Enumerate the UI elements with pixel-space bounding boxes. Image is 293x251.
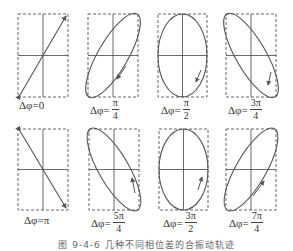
label-prefix: Δφ=: [229, 217, 249, 229]
direction-arrow: [117, 66, 126, 79]
direction-arrow: [268, 72, 271, 85]
label-phase-3pi-2: Δφ= 3π2: [163, 211, 197, 234]
label-prefix: Δφ=: [91, 217, 111, 229]
fraction: 3π2: [185, 211, 197, 234]
label-phase-pi: Δφ=π: [24, 214, 49, 226]
fraction: π2: [183, 98, 190, 121]
panel-phase-pi-4: [76, 6, 150, 104]
figure-caption: 图 9-4-6 几种不同相位差的合振动轨迹: [0, 238, 293, 251]
fraction: π4: [112, 98, 119, 121]
panel-phase-0: [18, 14, 68, 97]
fraction: 3π4: [250, 98, 262, 121]
panel-phase-7pi-4: [215, 121, 288, 217]
label-prefix: Δφ=: [163, 217, 183, 229]
panel-phase-pi: [18, 129, 68, 210]
panel-phase-3pi-4: [214, 6, 288, 104]
label-phase-7pi-4: Δφ= 7π4: [229, 211, 263, 234]
label-prefix: Δφ=: [90, 104, 110, 116]
panel-phase-3pi-2: [159, 129, 208, 210]
label-phase-pi-4: Δφ= π4: [90, 98, 119, 121]
label-phase-5pi-4: Δφ= 5π4: [91, 211, 125, 234]
direction-arrow: [198, 177, 202, 190]
label-phase-3pi-4: Δφ= 3π4: [228, 98, 262, 121]
label-prefix: Δφ=: [228, 104, 248, 116]
direction-arrow: [196, 70, 201, 82]
label-prefix: Δφ=: [19, 99, 39, 111]
label-phase-pi-2: Δφ= π2: [161, 98, 190, 121]
direction-arrow: [253, 181, 264, 196]
label-prefix: Δφ=: [24, 214, 44, 226]
label-value: π: [44, 214, 50, 226]
label-value: 0: [39, 99, 45, 111]
direction-arrow: [132, 178, 135, 193]
fraction: 7π4: [251, 211, 263, 234]
panel-phase-5pi-4: [78, 121, 151, 217]
fraction: 5π4: [113, 211, 125, 234]
label-phase-0: Δφ=0: [19, 99, 44, 111]
panel-phase-pi-2: [158, 14, 207, 97]
label-prefix: Δφ=: [161, 104, 181, 116]
